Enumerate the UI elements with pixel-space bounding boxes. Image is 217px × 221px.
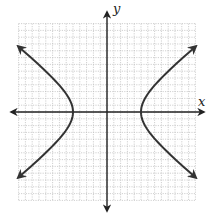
axes (11, 12, 204, 211)
hyperbola-graph (0, 0, 217, 221)
y-axis-label: y (113, 1, 120, 16)
x-axis-label: x (198, 94, 205, 109)
